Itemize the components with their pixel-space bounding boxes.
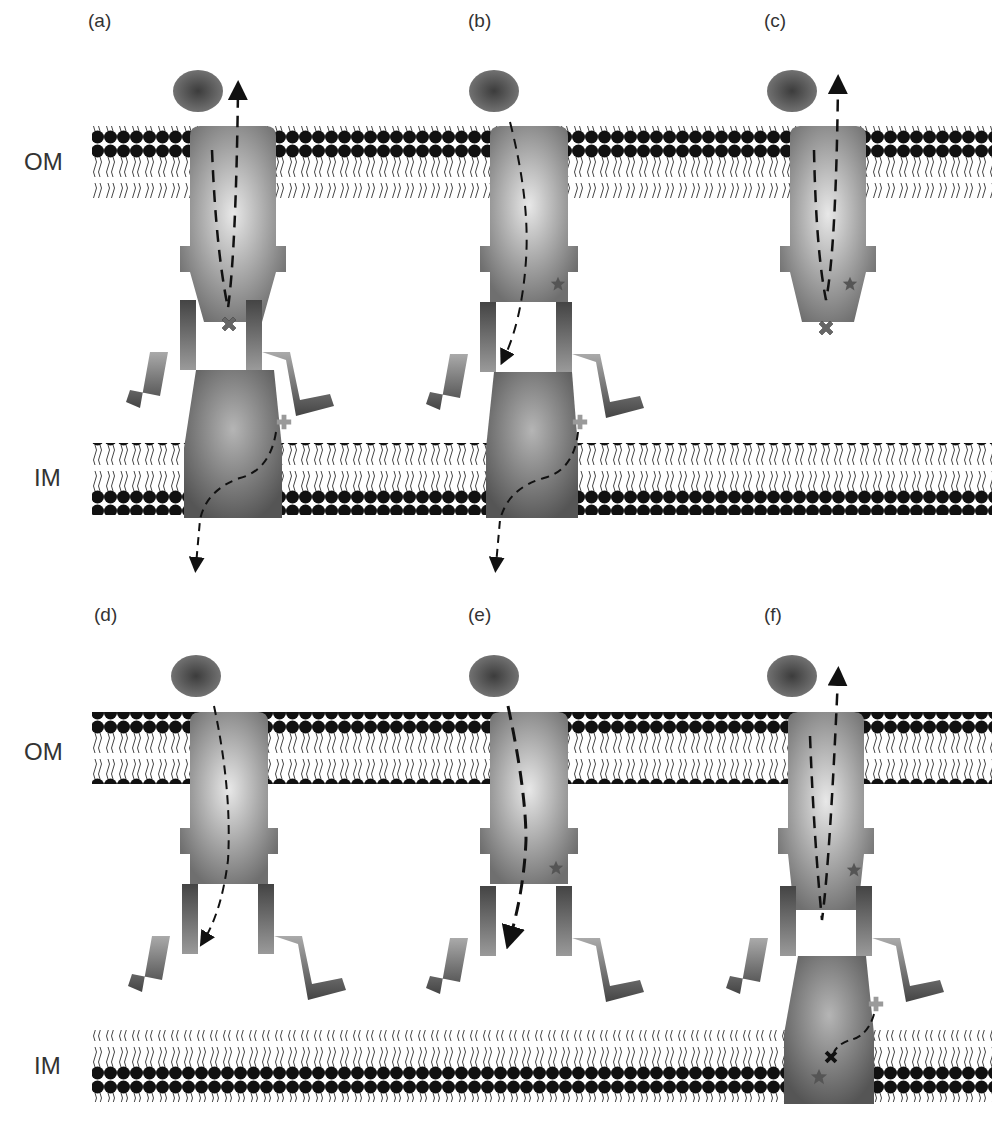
panel-e [426, 655, 644, 1002]
om-translocase [180, 126, 286, 322]
diagram-canvas [0, 0, 992, 1126]
substrate-ball [767, 70, 817, 112]
substrate-ball [469, 655, 519, 697]
panel-d [128, 655, 346, 1000]
substrate-ball [767, 655, 817, 697]
panel-c [767, 70, 876, 335]
im-translocase [184, 370, 282, 518]
substrate-ball [469, 70, 519, 112]
substrate-ball [173, 70, 223, 112]
substrate-ball [171, 655, 221, 697]
